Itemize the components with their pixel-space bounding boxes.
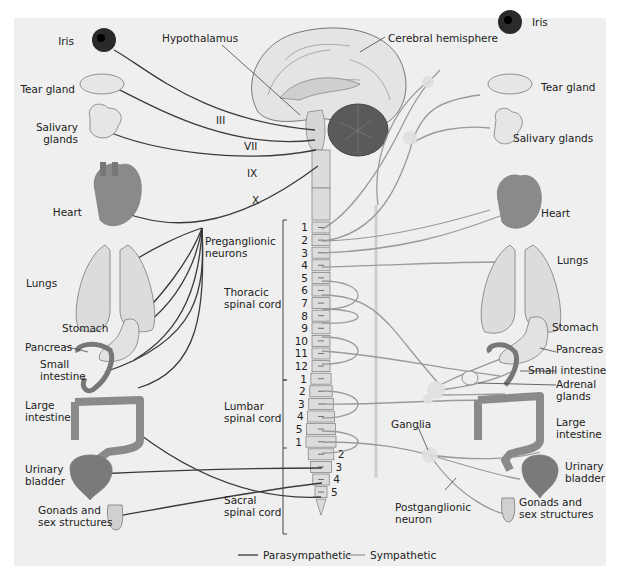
label-left-iris: Iris (58, 35, 74, 47)
label-left-lungs: Lungs (26, 277, 57, 289)
legend-label-sympathetic: Sympathetic (370, 549, 436, 561)
label-right-pancreas: Pancreas (556, 343, 603, 355)
label-left-tear-gland: Tear gland (19, 83, 75, 95)
ans-diagram: 1234567891011121234512345 (0, 0, 620, 579)
label-right-stomach: Stomach (552, 321, 598, 333)
spinal-cord: 1234567891011121234512345 (295, 188, 345, 515)
label-left-heart: Heart (53, 206, 82, 218)
legend: Parasympathetic Sympathetic (238, 549, 436, 561)
brain (252, 28, 406, 188)
segment-number: 9 (301, 322, 308, 334)
label-left-large-intestine: Largeintestine (25, 399, 71, 423)
left-organs (70, 28, 155, 530)
segment-number: 2 (301, 234, 308, 246)
label-right-salivary-glands: Salivary glands (513, 132, 593, 144)
segment-number: 1 (295, 436, 302, 448)
right-lungs-image (481, 245, 515, 333)
left-tear-gland-image (80, 74, 124, 94)
label-postganglionic-neuron: Postganglionicneuron (395, 501, 471, 525)
label-right-large-intestine: Largeintestine (556, 416, 602, 440)
label-right-adrenal-glands: Adrenalglands (556, 378, 596, 402)
segment-number: 4 (301, 259, 308, 271)
label-preganglionic-neurons: Preganglionicneurons (205, 235, 276, 259)
segment-number: 10 (295, 335, 308, 347)
coccyx (316, 499, 326, 515)
label-cerebral-hemisphere: Cerebral hemisphere (388, 32, 498, 44)
segment-number: 2 (299, 385, 306, 397)
legend-label-parasympathetic: Parasympathetic (263, 549, 351, 561)
label-sacral-spinal-cord: Sacralspinal cord (224, 494, 281, 518)
segment-number: 6 (301, 284, 308, 296)
segment-number: 11 (295, 347, 308, 359)
label-left-gonads: Gonads andsex structures (38, 504, 112, 528)
segment-number: 4 (297, 410, 304, 422)
label-left-pancreas: Pancreas (25, 341, 72, 353)
label-right-heart: Heart (541, 207, 570, 219)
left-salivary-image (89, 104, 121, 138)
segment-number: 1 (300, 373, 307, 385)
label-right-iris: Iris (532, 16, 548, 28)
label-left-salivary-glands: Salivaryglands (36, 121, 78, 145)
label-right-tear-gland: Tear gland (540, 81, 596, 93)
ganglia (403, 76, 445, 463)
left-bladder-image (70, 455, 112, 500)
right-tear-gland-image (488, 74, 532, 94)
right-adrenal-image (462, 371, 478, 385)
label-cranial-nerve-VII: VII (244, 140, 257, 152)
segment-number: 3 (301, 247, 308, 259)
label-left-stomach: Stomach (62, 322, 108, 334)
label-left-small-intestine: Smallintestine (40, 358, 86, 382)
segment-number: 5 (296, 423, 303, 435)
label-ganglia: Ganglia (391, 418, 431, 430)
segment-number: 2 (338, 448, 345, 460)
label-cranial-nerve-X: X (252, 194, 259, 206)
right-heart-image (497, 175, 541, 228)
segment-number: 1 (301, 221, 308, 233)
right-gonads-image (501, 498, 514, 522)
segment-number: 7 (301, 297, 308, 309)
segment-number: 4 (333, 473, 340, 485)
segment-number: 12 (295, 360, 308, 372)
right-bladder-image (522, 455, 558, 498)
label-thoracic-spinal-cord: Thoracicspinal cord (223, 286, 281, 310)
segment-number: 3 (298, 398, 305, 410)
segment-number: 3 (336, 461, 343, 473)
region-brackets (283, 220, 287, 534)
segment-number: 5 (331, 486, 338, 498)
segment-number: 5 (301, 272, 308, 284)
label-right-lungs: Lungs (557, 254, 588, 266)
label-left-urinary-bladder: Urinarybladder (25, 463, 66, 487)
cervical-segment (312, 188, 330, 220)
label-right-urinary-bladder: Urinarybladder (565, 460, 606, 484)
label-cranial-nerve-III: III (216, 114, 225, 126)
label-cranial-nerve-IX: IX (247, 167, 257, 179)
label-right-gonads: Gonads andsex structures (519, 496, 593, 520)
segment-number: 8 (301, 310, 308, 322)
label-right-small-intestine: Small intestine (528, 364, 606, 376)
left-lungs-image (76, 245, 110, 332)
label-hypothalamus: Hypothalamus (162, 32, 238, 44)
label-lumbar-spinal-cord: Lumbarspinal cord (224, 400, 281, 424)
